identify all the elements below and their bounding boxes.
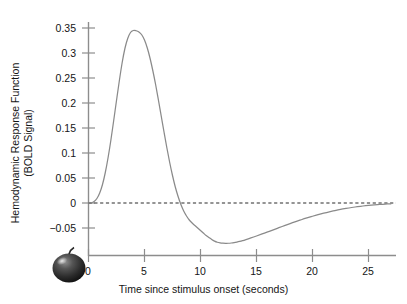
x-tick-label-1: 5 [141, 266, 147, 277]
x-tick-label-2: 10 [194, 266, 206, 277]
y-tick-label-5: 0.1 [36, 148, 76, 159]
y-axis-title-line1: Hemodynamic Response Function [9, 63, 21, 224]
x-tick-label-4: 20 [306, 266, 318, 277]
y-tick-label-6: 0.05 [36, 173, 76, 184]
y-tick-label-1: 0.3 [36, 48, 76, 59]
y-tick-label-4: 0.15 [36, 123, 76, 134]
x-tick-label-3: 15 [250, 266, 262, 277]
x-tick-label-5: 25 [362, 266, 374, 277]
y-tick-label-8: −0.05 [33, 223, 76, 234]
hrf-curve [89, 30, 391, 243]
y-tick-label-7: 0 [36, 198, 76, 209]
x-axis-title: Time since stimulus onset (seconds) [0, 283, 407, 295]
hrf-chart-figure: 0.35 0.3 0.25 0.2 0.15 0.1 0.05 0 −0.05 … [0, 0, 407, 304]
y-axis-title-line2: (BOLD Signal) [22, 43, 35, 243]
apple-icon [53, 248, 86, 283]
y-tick-label-0: 0.35 [36, 23, 76, 34]
y-tick-label-3: 0.2 [36, 98, 76, 109]
y-tick-label-2: 0.25 [36, 73, 76, 84]
x-tick-label-0: 0 [85, 266, 91, 277]
y-axis-title: Hemodynamic Response Function (BOLD Sign… [9, 43, 35, 243]
